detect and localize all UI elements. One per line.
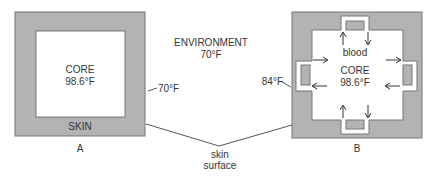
a-caption: A: [70, 143, 90, 154]
skin-surface-line2: surface: [195, 160, 245, 171]
environment-label: ENVIRONMENT: [168, 37, 254, 48]
environment-temp: 70°F: [168, 49, 254, 60]
capillary-top: [346, 21, 364, 30]
b-blood-label: blood: [335, 47, 375, 58]
b-temp-leader: [282, 82, 291, 87]
a-surface-temp: 70°F: [158, 83, 188, 94]
a-temp-leader: [148, 88, 157, 91]
a-skin-label: SKIN: [60, 121, 100, 132]
b-caption: B: [347, 143, 367, 154]
b-core-label: CORE: [330, 65, 380, 76]
skin-surface-leaders: [146, 124, 292, 146]
skin-surface-line1: skin: [195, 149, 245, 160]
b-core-temp: 98.6°F: [330, 77, 380, 88]
capillary-bottom: [346, 120, 364, 129]
capillary-left: [301, 65, 310, 85]
a-core-label: CORE: [55, 64, 105, 75]
capillary-right: [403, 65, 412, 85]
b-surface-temp: 84°F: [251, 76, 283, 87]
a-core-temp: 98.6°F: [55, 76, 105, 87]
